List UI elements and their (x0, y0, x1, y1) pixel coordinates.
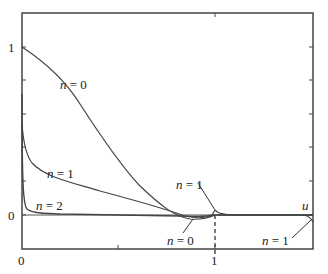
x-axis-variable-label: u (302, 198, 309, 213)
annotation-n0-low: n = 0 (167, 233, 194, 248)
chart: 1 0 0 1 u n = 0 n = 1 n = 2 n = 1 n = 0 … (0, 0, 328, 274)
x-tick-label-1: 1 (211, 253, 218, 268)
annotation-n1-mid: n = 1 (176, 177, 203, 192)
y-tick-label-0: 0 (8, 208, 15, 223)
annotation-arrow-n0-low (183, 219, 193, 233)
annotation-arrow-n1-right (292, 220, 311, 238)
annotation-n1-right: n = 1 (262, 233, 289, 248)
series-n2-curve (22, 94, 313, 216)
x-tick-label-0: 0 (18, 253, 25, 268)
annotation-n2: n = 2 (36, 198, 63, 213)
x-ticks (118, 13, 215, 249)
y-ticks (22, 47, 313, 215)
y-tick-label-1: 1 (8, 40, 15, 55)
series-n0-curve (22, 47, 313, 219)
annotation-n0-top: n = 0 (60, 77, 87, 92)
annotation-n1-left: n = 1 (47, 166, 74, 181)
